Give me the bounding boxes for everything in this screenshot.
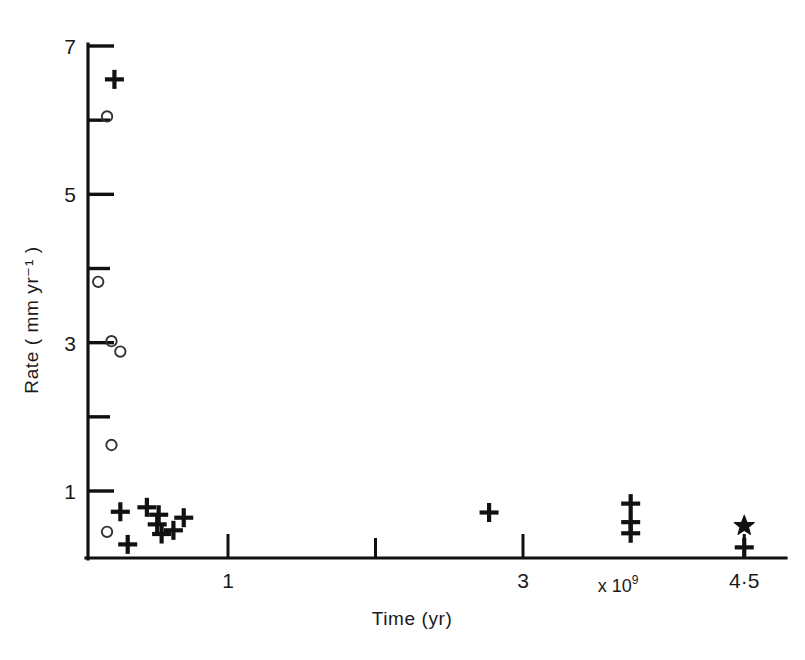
y-tick-label-3: 3 — [64, 332, 76, 355]
y-axis-title: Rate ( mm yr⁻¹ ) — [21, 246, 42, 393]
data-point-circle — [106, 440, 116, 450]
data-point-plus — [164, 521, 183, 540]
data-point-circle — [93, 277, 103, 287]
y-tick-label-7: 7 — [64, 35, 76, 58]
data-point-plus — [152, 525, 171, 544]
data-point-circle — [102, 527, 112, 537]
x-axis-title: Time (yr) — [372, 608, 453, 629]
x-tick-label-3: 3 — [517, 569, 529, 592]
y-tick-label-group: 1357 — [64, 35, 76, 503]
x-multiplier-exponent: 9 — [632, 573, 639, 587]
plot-canvas: 1357 134·5 Rate ( mm yr⁻¹ ) Time (yr) x … — [0, 0, 805, 660]
data-point-plus — [105, 70, 124, 89]
scatter-plot-figure: 1357 134·5 Rate ( mm yr⁻¹ ) Time (yr) x … — [0, 0, 805, 660]
data-point-plus — [111, 502, 130, 521]
x-tick-label-1: 1 — [222, 569, 234, 592]
data-point-plus — [174, 508, 193, 527]
axes-group — [86, 44, 786, 559]
data-point-plus — [621, 494, 640, 513]
data-point-star — [734, 515, 754, 534]
data-marker-group — [93, 70, 754, 557]
data-point-plus — [480, 503, 499, 522]
x-multiplier-base: x 10 — [598, 576, 632, 596]
y-tick-label-1: 1 — [64, 480, 76, 503]
x-tick-group — [228, 534, 744, 558]
x-tick-label-group: 134·5 — [222, 569, 759, 592]
data-point-plus — [735, 538, 754, 557]
data-point-plus — [118, 535, 137, 554]
y-tick-label-5: 5 — [64, 183, 76, 206]
data-point-circle — [115, 346, 125, 356]
x-tick-label-4-5: 4·5 — [729, 569, 759, 592]
data-point-plus — [621, 524, 640, 543]
x-axis-multiplier: x 109 — [598, 573, 639, 596]
